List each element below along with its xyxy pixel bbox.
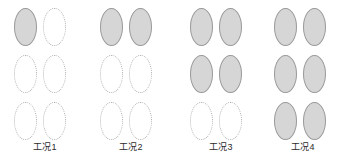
ellipse-cell-r1-c2	[303, 8, 326, 46]
ellipse-cell-r2-c2	[43, 55, 66, 93]
ellipse-grid	[86, 8, 176, 136]
filled-ellipse-icon	[274, 55, 297, 93]
group-caption: 工况2	[86, 140, 176, 153]
ellipse-cell-r1-c1	[190, 8, 213, 46]
ellipse-cell-r3-c2	[219, 102, 242, 140]
filled-ellipse-icon	[303, 55, 326, 93]
ellipse-cell-r3-c2	[129, 102, 152, 140]
ellipse-cell-r3-c1	[190, 102, 213, 140]
filled-ellipse-icon	[219, 55, 242, 93]
ellipse-cell-r1-c1	[100, 8, 123, 46]
filled-ellipse-icon	[274, 102, 297, 140]
ellipse-cell-r2-c1	[190, 55, 213, 93]
group-caption: 工况4	[260, 140, 346, 153]
filled-ellipse-icon	[100, 8, 123, 46]
filled-ellipse-icon	[274, 8, 297, 46]
empty-ellipse-icon	[43, 102, 66, 140]
empty-ellipse-icon	[100, 102, 123, 140]
filled-ellipse-icon	[303, 102, 326, 140]
filled-ellipse-icon	[129, 8, 152, 46]
empty-ellipse-icon	[219, 102, 242, 140]
ellipse-grid	[260, 8, 346, 136]
ellipse-cell-r3-c1	[274, 102, 297, 140]
ellipse-condition-figure: 工况1工况2工况3工况4	[0, 0, 346, 165]
condition-group-1: 工况1	[0, 0, 90, 165]
empty-ellipse-icon	[190, 102, 213, 140]
group-caption: 工况1	[0, 140, 90, 153]
empty-ellipse-icon	[129, 102, 152, 140]
filled-ellipse-icon	[303, 8, 326, 46]
filled-ellipse-icon	[14, 8, 37, 46]
ellipse-cell-r2-c1	[14, 55, 37, 93]
condition-group-3: 工况3	[176, 0, 266, 165]
condition-group-2: 工况2	[86, 0, 176, 165]
ellipse-cell-r3-c1	[100, 102, 123, 140]
ellipse-cell-r2-c1	[274, 55, 297, 93]
ellipse-cell-r1-c2	[129, 8, 152, 46]
filled-ellipse-icon	[190, 8, 213, 46]
filled-ellipse-icon	[190, 55, 213, 93]
ellipse-cell-r1-c1	[274, 8, 297, 46]
ellipse-cell-r2-c2	[219, 55, 242, 93]
group-caption: 工况3	[176, 140, 266, 153]
ellipse-cell-r1-c2	[43, 8, 66, 46]
empty-ellipse-icon	[43, 55, 66, 93]
ellipse-cell-r3-c2	[43, 102, 66, 140]
ellipse-cell-r1-c2	[219, 8, 242, 46]
ellipse-cell-r1-c1	[14, 8, 37, 46]
ellipse-cell-r3-c1	[14, 102, 37, 140]
empty-ellipse-icon	[14, 55, 37, 93]
empty-ellipse-icon	[14, 102, 37, 140]
ellipse-cell-r3-c2	[303, 102, 326, 140]
ellipse-grid	[176, 8, 266, 136]
filled-ellipse-icon	[219, 8, 242, 46]
empty-ellipse-icon	[43, 8, 66, 46]
ellipse-cell-r2-c1	[100, 55, 123, 93]
condition-group-4: 工况4	[260, 0, 346, 165]
ellipse-cell-r2-c2	[303, 55, 326, 93]
ellipse-grid	[0, 8, 90, 136]
ellipse-cell-r2-c2	[129, 55, 152, 93]
empty-ellipse-icon	[129, 55, 152, 93]
empty-ellipse-icon	[100, 55, 123, 93]
